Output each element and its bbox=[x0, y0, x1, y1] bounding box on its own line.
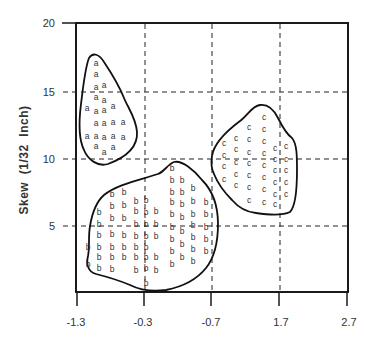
point-c: c bbox=[262, 148, 267, 158]
point-b: b bbox=[204, 197, 209, 207]
point-b: b bbox=[144, 231, 149, 241]
point-b: b bbox=[191, 256, 196, 266]
point-a: a bbox=[94, 118, 99, 128]
point-c: c bbox=[273, 154, 278, 164]
cluster-scatter-chart: -1.3 -0.3 -0.7 1.7 2.7 20 15 10 5 Skew (… bbox=[0, 0, 375, 343]
point-b: b bbox=[191, 196, 196, 206]
point-b: b bbox=[110, 201, 115, 211]
point-b: b bbox=[134, 231, 139, 241]
y-tick-label-10: 10 bbox=[43, 153, 55, 165]
point-c: c bbox=[234, 133, 239, 143]
point-c: c bbox=[222, 174, 227, 184]
point-c: c bbox=[262, 184, 267, 194]
x-tick-labels: -1.3 -0.3 -0.7 1.7 2.7 bbox=[67, 316, 357, 328]
point-b: b bbox=[191, 244, 196, 254]
point-b: b bbox=[134, 206, 139, 216]
point-b: b bbox=[97, 230, 102, 240]
y-tick-label-5: 5 bbox=[49, 220, 55, 232]
point-c: c bbox=[284, 141, 289, 151]
point-a: a bbox=[121, 117, 126, 127]
point-b: b bbox=[180, 187, 185, 197]
point-b: b bbox=[110, 229, 115, 239]
point-b: b bbox=[110, 242, 115, 252]
x-tick-label-0: -1.3 bbox=[67, 316, 86, 328]
point-b: b bbox=[86, 242, 91, 252]
point-c: c bbox=[273, 165, 278, 175]
point-b: b bbox=[97, 242, 102, 252]
point-b: b bbox=[180, 175, 185, 185]
point-c: c bbox=[247, 170, 252, 180]
point-a: a bbox=[102, 147, 107, 157]
x-tick-label-4: 2.7 bbox=[341, 316, 356, 328]
point-c: c bbox=[262, 112, 267, 122]
point-a: a bbox=[102, 132, 107, 142]
point-a: a bbox=[94, 69, 99, 79]
point-a: a bbox=[102, 80, 107, 90]
cluster-a-points: a a a a a a a a a a a a a a a a a a a a … bbox=[85, 58, 126, 157]
point-c: c bbox=[262, 124, 267, 134]
x-ticks bbox=[77, 292, 347, 306]
point-b: b bbox=[204, 209, 209, 219]
y-axis-label: Skew (1/32 Inch) bbox=[17, 105, 31, 214]
point-b: b bbox=[122, 230, 127, 240]
point-b: b bbox=[134, 252, 139, 262]
point-b: b bbox=[170, 222, 175, 232]
point-c: c bbox=[247, 134, 252, 144]
point-c: c bbox=[247, 195, 252, 205]
point-a: a bbox=[94, 106, 99, 116]
point-b: b bbox=[97, 252, 102, 262]
point-a: a bbox=[111, 101, 116, 111]
point-c: c bbox=[247, 182, 252, 192]
point-b: b bbox=[110, 213, 115, 223]
point-c: c bbox=[284, 189, 289, 199]
point-b: b bbox=[144, 263, 149, 273]
point-b: b bbox=[191, 209, 196, 219]
point-c: c bbox=[273, 177, 278, 187]
point-b: b bbox=[144, 219, 149, 229]
point-c: c bbox=[262, 197, 267, 207]
point-b: b bbox=[170, 197, 175, 207]
point-b: b bbox=[154, 219, 159, 229]
point-a: a bbox=[121, 132, 126, 142]
point-b: b bbox=[97, 219, 102, 229]
point-b: b bbox=[170, 187, 175, 197]
point-b: b bbox=[122, 200, 127, 210]
point-b: b bbox=[86, 259, 91, 269]
point-b: b bbox=[144, 278, 149, 288]
point-b: b bbox=[180, 239, 185, 249]
point-b: b bbox=[170, 209, 175, 219]
point-b: b bbox=[144, 207, 149, 217]
point-b: b bbox=[134, 265, 139, 275]
point-a: a bbox=[111, 142, 116, 152]
point-c: c bbox=[262, 136, 267, 146]
point-a: a bbox=[102, 105, 107, 115]
point-c: c bbox=[234, 169, 239, 179]
point-c: c bbox=[247, 158, 252, 168]
point-b: b bbox=[180, 252, 185, 262]
point-b: b bbox=[170, 234, 175, 244]
point-b: b bbox=[154, 231, 159, 241]
point-b: b bbox=[134, 242, 139, 252]
point-b: b bbox=[180, 226, 185, 236]
point-b: b bbox=[170, 259, 175, 269]
point-a: a bbox=[111, 117, 116, 127]
point-c: c bbox=[247, 147, 252, 157]
point-c: c bbox=[262, 160, 267, 170]
point-b: b bbox=[110, 252, 115, 262]
point-b: b bbox=[191, 220, 196, 230]
point-c: c bbox=[247, 122, 252, 132]
point-c: c bbox=[273, 143, 278, 153]
point-c: c bbox=[284, 177, 289, 187]
point-a: a bbox=[94, 131, 99, 141]
x-tick-label-1: -0.3 bbox=[134, 316, 153, 328]
point-b: b bbox=[134, 219, 139, 229]
point-b: b bbox=[191, 232, 196, 242]
point-a: a bbox=[94, 82, 99, 92]
point-b: b bbox=[170, 246, 175, 256]
point-b: b bbox=[170, 163, 175, 173]
point-c: c bbox=[284, 165, 289, 175]
point-a: a bbox=[94, 92, 99, 102]
point-b: b bbox=[134, 196, 139, 206]
point-b: b bbox=[97, 207, 102, 217]
cluster-b-points: b b b b b b b b b b b b b b b b b b b b … bbox=[86, 163, 209, 288]
